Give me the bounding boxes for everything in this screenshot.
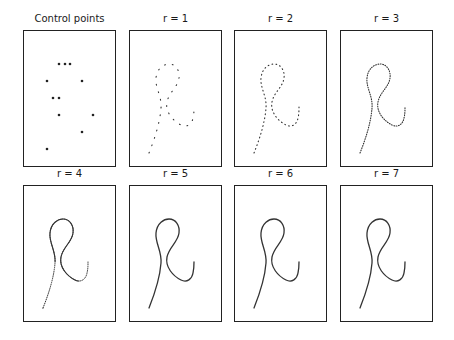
panel-title: r = 7 — [340, 168, 433, 179]
panel-title: r = 3 — [340, 13, 433, 24]
control-point — [64, 63, 67, 66]
panel-title: r = 4 — [23, 168, 116, 179]
panel-r-7: r = 7 — [340, 185, 433, 322]
subdivision-curve — [254, 64, 299, 153]
control-point — [58, 63, 61, 66]
control-point — [58, 114, 61, 117]
curve-plot — [234, 185, 327, 322]
curve-plot — [340, 30, 433, 167]
control-point — [46, 148, 49, 151]
subdivision-curve — [43, 219, 88, 308]
curve-plot — [129, 30, 222, 167]
curve-plot — [129, 185, 222, 322]
control-point — [58, 97, 61, 100]
panel-r-1: r = 1 — [129, 30, 222, 167]
subdivision-curve — [149, 219, 194, 308]
panel-r-5: r = 5 — [129, 185, 222, 322]
control-point — [92, 114, 95, 117]
panel-r-3: r = 3 — [340, 30, 433, 167]
curve-plot — [340, 185, 433, 322]
control-point — [52, 97, 55, 100]
panel-title: Control points — [23, 13, 116, 24]
subdivision-curve — [360, 64, 405, 153]
panel-title: r = 5 — [129, 168, 222, 179]
panel-title: r = 2 — [234, 13, 327, 24]
control-point — [46, 80, 49, 83]
curve-plot — [234, 30, 327, 167]
panel-r-2: r = 2 — [234, 30, 327, 167]
panel-r-6: r = 6 — [234, 185, 327, 322]
control-point — [81, 131, 84, 134]
subdivision-curve — [254, 219, 299, 308]
panel-title: r = 6 — [234, 168, 327, 179]
curve-plot — [23, 185, 116, 322]
control-point — [69, 63, 72, 66]
subdivision-curve — [360, 219, 405, 308]
control-points-plot — [23, 30, 116, 167]
panel-title: r = 1 — [129, 13, 222, 24]
control-point — [81, 80, 84, 83]
subdivision-curve — [149, 64, 194, 153]
panel-r-4: r = 4 — [23, 185, 116, 322]
panel-control-points: Control points — [23, 30, 116, 167]
